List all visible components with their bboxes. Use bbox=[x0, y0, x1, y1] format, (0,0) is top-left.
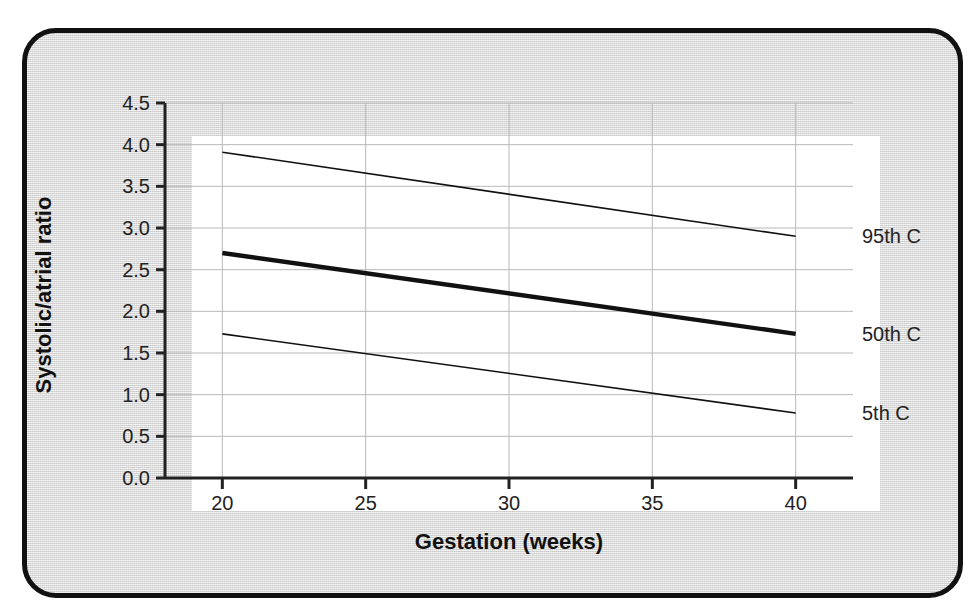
y-tick-label: 2.0 bbox=[122, 300, 150, 323]
y-tick-label: 3.0 bbox=[122, 217, 150, 240]
x-axis-tick-labels: 2025303540 bbox=[0, 492, 980, 518]
y-tick-label: 4.0 bbox=[122, 133, 150, 156]
x-axis-title: Gestation (weeks) bbox=[415, 529, 603, 555]
x-tick-label: 20 bbox=[211, 492, 233, 515]
plot-area bbox=[192, 136, 880, 511]
series-label-5th-c: 5th C bbox=[862, 402, 910, 425]
y-tick-label: 0.0 bbox=[122, 467, 150, 490]
x-tick-label: 30 bbox=[498, 492, 520, 515]
series-label-95th-c: 95th C bbox=[862, 225, 921, 248]
y-tick-label: 0.5 bbox=[122, 425, 150, 448]
x-tick-label: 40 bbox=[785, 492, 807, 515]
y-axis-title: Systolic/atrial ratio bbox=[31, 197, 57, 394]
x-tick-label: 25 bbox=[355, 492, 377, 515]
chart-figure: 0.00.51.01.52.02.53.03.54.04.5 202530354… bbox=[0, 0, 980, 613]
y-tick-label: 1.0 bbox=[122, 383, 150, 406]
y-axis-tick-labels: 0.00.51.01.52.02.53.03.54.04.5 bbox=[104, 0, 150, 613]
x-tick-label: 35 bbox=[641, 492, 663, 515]
series-label-50th-c: 50th C bbox=[862, 322, 921, 345]
y-tick-label: 3.5 bbox=[122, 175, 150, 198]
y-tick-label: 4.5 bbox=[122, 92, 150, 115]
y-tick-label: 1.5 bbox=[122, 342, 150, 365]
y-tick-label: 2.5 bbox=[122, 258, 150, 281]
